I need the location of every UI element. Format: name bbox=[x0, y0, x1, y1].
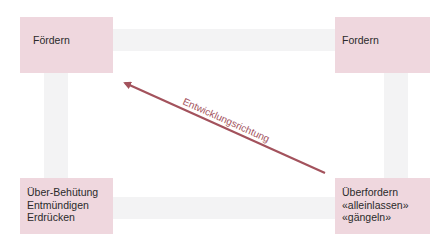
arrow-label: Entwicklungsrichtung bbox=[181, 96, 271, 145]
development-arrow: Entwicklungsrichtung bbox=[0, 0, 445, 247]
arrow-line bbox=[125, 83, 325, 173]
